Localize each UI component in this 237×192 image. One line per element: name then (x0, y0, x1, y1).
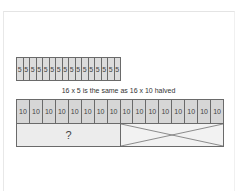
ten-cell: 10 (146, 100, 159, 123)
ten-cell: 10 (133, 100, 146, 123)
fives-strip: 5 5 5 5 5 5 5 5 5 5 5 5 5 5 5 5 (16, 57, 121, 81)
unknown-half: ? (16, 123, 121, 147)
ten-cell: 10 (185, 100, 198, 123)
ten-cell: 10 (17, 100, 30, 123)
crossed-half (120, 123, 224, 147)
ten-cell: 10 (69, 100, 82, 123)
ten-cell: 10 (30, 100, 43, 123)
caption: 16 x 5 is the same as 16 x 10 halved (0, 86, 237, 95)
ten-cell: 10 (211, 100, 223, 123)
ten-cell: 10 (95, 100, 108, 123)
ten-cell: 10 (56, 100, 69, 123)
five-cell: 5 (115, 58, 121, 80)
ten-cell: 10 (43, 100, 56, 123)
ten-cell: 10 (172, 100, 185, 123)
ten-cell: 10 (198, 100, 211, 123)
ten-cell: 10 (82, 100, 95, 123)
cross-mark-icon (121, 124, 223, 146)
tens-bar: 10 10 10 10 10 10 10 10 10 10 10 10 10 1… (16, 99, 224, 124)
ten-cell: 10 (121, 100, 134, 123)
ten-cell: 10 (159, 100, 172, 123)
ten-cell: 10 (108, 100, 121, 123)
